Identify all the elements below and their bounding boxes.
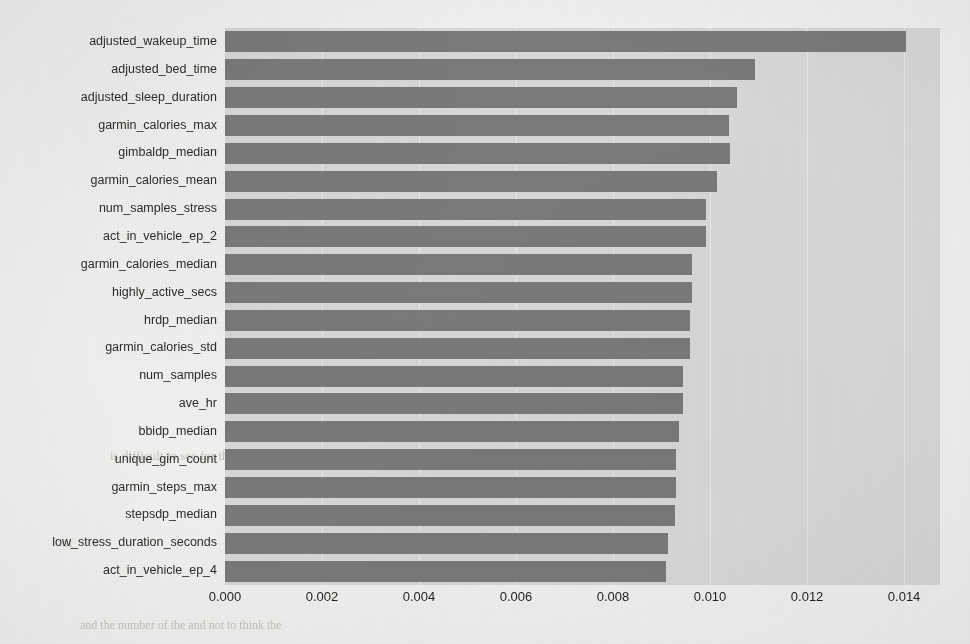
y-axis-tick-label: garmin_calories_max: [0, 112, 217, 140]
bar-row: [225, 251, 940, 279]
y-axis-tick-label: stepsdp_median: [0, 501, 217, 529]
x-axis-tick-label: 0.002: [306, 589, 339, 604]
y-axis-tick-label: hrdp_median: [0, 307, 217, 335]
bar-row: [225, 279, 940, 307]
bar[interactable]: [225, 171, 717, 192]
bar[interactable]: [225, 477, 676, 498]
y-axis-tick-label: garmin_calories_mean: [0, 167, 217, 195]
bar[interactable]: [225, 561, 666, 582]
bar[interactable]: [225, 226, 706, 247]
bar[interactable]: [225, 393, 683, 414]
bar-row: [225, 390, 940, 418]
bar-row: [225, 362, 940, 390]
bar-row: [225, 28, 940, 56]
y-axis-tick-label: num_samples_stress: [0, 195, 217, 223]
bar[interactable]: [225, 449, 676, 470]
y-axis-tick-label: ave_hr: [0, 390, 217, 418]
x-axis-tick-label: 0.014: [888, 589, 921, 604]
bar[interactable]: [225, 338, 690, 359]
plot-area: [225, 28, 940, 585]
bar[interactable]: [225, 282, 692, 303]
bar-row: [225, 474, 940, 502]
bar[interactable]: [225, 421, 679, 442]
bar-row: [225, 223, 940, 251]
bar[interactable]: [225, 87, 737, 108]
bar-row: [225, 167, 940, 195]
bar[interactable]: [225, 199, 706, 220]
y-axis-tick-label: bbidp_median: [0, 418, 217, 446]
x-axis-tick-label: 0.012: [791, 589, 824, 604]
bar-row: [225, 334, 940, 362]
bar-row: [225, 195, 940, 223]
y-axis-tick-label: act_in_vehicle_ep_2: [0, 223, 217, 251]
bar-row: [225, 139, 940, 167]
bar-row: [225, 446, 940, 474]
bar-row: [225, 112, 940, 140]
bar-row: [225, 529, 940, 557]
feature-importance-bar-chart: adjusted_wakeup_timeadjusted_bed_timeadj…: [0, 0, 970, 644]
bar[interactable]: [225, 310, 690, 331]
x-axis-tick-label: 0.000: [209, 589, 242, 604]
x-axis-tick-label: 0.006: [500, 589, 533, 604]
y-axis-tick-label: unique_gim_count: [0, 446, 217, 474]
y-axis-tick-label: adjusted_sleep_duration: [0, 84, 217, 112]
bar[interactable]: [225, 143, 730, 164]
y-axis-tick-label: garmin_calories_std: [0, 334, 217, 362]
bar[interactable]: [225, 366, 683, 387]
bar-row: [225, 307, 940, 335]
y-axis-tick-label: gimbaldp_median: [0, 139, 217, 167]
x-axis-tick-label: 0.004: [403, 589, 436, 604]
bar[interactable]: [225, 115, 729, 136]
bar[interactable]: [225, 31, 906, 52]
y-axis-tick-label: garmin_steps_max: [0, 474, 217, 502]
y-axis-tick-label: highly_active_secs: [0, 279, 217, 307]
bar-row: [225, 418, 940, 446]
y-axis-tick-label: low_stress_duration_seconds: [0, 529, 217, 557]
x-axis-tick-label: 0.008: [597, 589, 630, 604]
y-axis-tick-label: garmin_calories_median: [0, 251, 217, 279]
bar-row: [225, 84, 940, 112]
y-axis-tick-label: num_samples: [0, 362, 217, 390]
y-axis-tick-label: adjusted_bed_time: [0, 56, 217, 84]
x-axis-tick-label: 0.010: [694, 589, 727, 604]
y-axis-tick-label: adjusted_wakeup_time: [0, 28, 217, 56]
bar[interactable]: [225, 505, 675, 526]
bar-row: [225, 56, 940, 84]
bar[interactable]: [225, 254, 692, 275]
bar-row: [225, 557, 940, 585]
bar[interactable]: [225, 533, 668, 554]
bar[interactable]: [225, 59, 755, 80]
bar-row: [225, 501, 940, 529]
screenshot-root: the Natureis difficult to see for theand…: [0, 0, 970, 644]
y-axis-tick-label: act_in_vehicle_ep_4: [0, 557, 217, 585]
